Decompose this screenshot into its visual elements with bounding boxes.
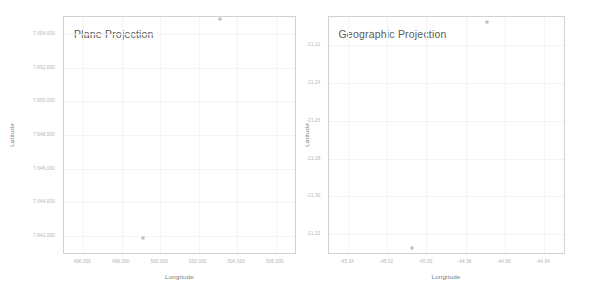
y-tick-label: 7.652.000: [33, 64, 55, 69]
gridline-horizontal: [329, 159, 564, 160]
panel-geographic-projection: Latitude -21.22-21.24-21.26-21.28-21.30-…: [298, 0, 595, 296]
y-tick-label: -21.32: [307, 231, 321, 236]
y-tick-labels-left: 7.654.0007.652.0007.650.0007.648.0007.64…: [0, 0, 58, 238]
gridline-horizontal: [329, 196, 564, 197]
gridline-horizontal: [329, 121, 564, 122]
x-tick-labels-right: -45.04-45.02-45.00-44.98-44.96-44.94: [328, 259, 565, 269]
x-tick-label: -45.04: [340, 259, 354, 264]
x-tick-labels-left: 496.000498.000500.000502.000504.000506.0…: [63, 259, 296, 269]
x-tick-label: 500.000: [150, 259, 168, 264]
x-tick-label: -45.00: [418, 259, 432, 264]
y-tick-label: 7.648.000: [33, 132, 55, 137]
gridline-horizontal: [64, 169, 295, 170]
gridline-vertical: [466, 17, 467, 253]
plot-title-geographic-projection: Geographic Projection: [339, 28, 447, 40]
gridline-horizontal: [64, 202, 295, 203]
y-tick-label: -21.26: [307, 117, 321, 122]
y-tick-label: -21.24: [307, 80, 321, 85]
gridline-horizontal: [329, 234, 564, 235]
gridline-horizontal: [64, 236, 295, 237]
gridline-vertical: [348, 17, 349, 253]
x-axis-title-left: Longitude: [63, 273, 296, 280]
x-tick-label: 498.000: [112, 259, 130, 264]
y-tick-label: 7.650.000: [33, 98, 55, 103]
gridline-horizontal: [64, 135, 295, 136]
x-axis-title-right: Longitude: [328, 273, 565, 280]
data-point-marker: [218, 17, 221, 20]
panel-plane-projection: Latitude 7.654.0007.652.0007.650.0007.64…: [0, 0, 298, 296]
y-tick-label: 7.654.000: [33, 30, 55, 35]
plot-area-plane-projection: Plane Projection: [63, 16, 296, 254]
y-tick-label: 7.644.000: [33, 199, 55, 204]
gridline-vertical: [544, 17, 545, 253]
y-tick-label: -21.30: [307, 193, 321, 198]
x-tick-label: -44.98: [458, 259, 472, 264]
x-tick-label: -44.96: [497, 259, 511, 264]
gridline-vertical: [426, 17, 427, 253]
gridline-horizontal: [64, 101, 295, 102]
figure-two-projection-scatter-plots: Latitude 7.654.0007.652.0007.650.0007.64…: [0, 0, 595, 296]
x-tick-label: -44.94: [536, 259, 550, 264]
data-point-marker: [486, 20, 489, 23]
y-tick-label: -21.22: [307, 42, 321, 47]
y-tick-label: -21.28: [307, 155, 321, 160]
data-point-marker: [410, 247, 413, 250]
y-tick-labels-right: -21.22-21.24-21.26-21.28-21.30-21.32: [298, 0, 324, 238]
plot-area-geographic-projection: Geographic Projection: [328, 16, 565, 254]
gridline-horizontal: [329, 45, 564, 46]
x-tick-label: 504.000: [227, 259, 245, 264]
gridline-horizontal: [329, 83, 564, 84]
x-tick-label: -45.02: [379, 259, 393, 264]
gridline-horizontal: [64, 68, 295, 69]
data-point-marker: [141, 236, 144, 239]
y-tick-label: 7.642.000: [33, 233, 55, 238]
x-tick-label: 506.000: [266, 259, 284, 264]
gridline-vertical: [505, 17, 506, 253]
gridline-vertical: [387, 17, 388, 253]
x-tick-label: 502.000: [189, 259, 207, 264]
x-tick-label: 496.000: [73, 259, 91, 264]
gridline-horizontal: [64, 34, 295, 35]
y-tick-label: 7.646.000: [33, 165, 55, 170]
